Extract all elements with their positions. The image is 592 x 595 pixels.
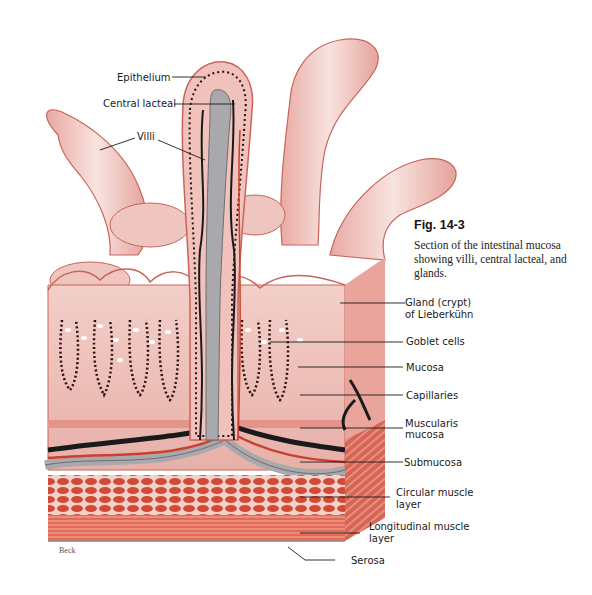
label-epithelium: Epithelium bbox=[117, 72, 171, 83]
label-longitudinal-line2: layer bbox=[369, 533, 394, 544]
label-longitudinal-line1: Longitudinal muscle bbox=[369, 521, 470, 532]
intestinal-mucosa-illustration bbox=[0, 0, 592, 595]
label-circular-line2: layer bbox=[396, 499, 421, 510]
label-mucosa: Mucosa bbox=[406, 362, 444, 373]
label-capillaries: Capillaries bbox=[406, 390, 458, 401]
label-goblet-cells: Goblet cells bbox=[406, 336, 465, 347]
label-serosa: Serosa bbox=[351, 555, 385, 566]
label-villi: Villi bbox=[137, 131, 155, 142]
label-submucosa: Submucosa bbox=[404, 457, 462, 468]
label-central-lacteal: Central lacteal bbox=[103, 98, 176, 109]
artist-signature: Beck bbox=[59, 546, 75, 555]
label-gland-line1: Gland (crypt) bbox=[405, 297, 471, 308]
villi-group bbox=[47, 39, 456, 298]
label-circular-line1: Circular muscle bbox=[396, 487, 473, 498]
figure-number: Fig. 14-3 bbox=[414, 218, 465, 232]
label-muscularis-line1: Muscularis bbox=[405, 418, 458, 429]
figure-caption: Section of the intestinal mucosa showing… bbox=[414, 238, 584, 280]
label-gland-line2: of Lieberkühn bbox=[405, 309, 473, 320]
label-muscularis-line2: mucosa bbox=[405, 429, 444, 440]
